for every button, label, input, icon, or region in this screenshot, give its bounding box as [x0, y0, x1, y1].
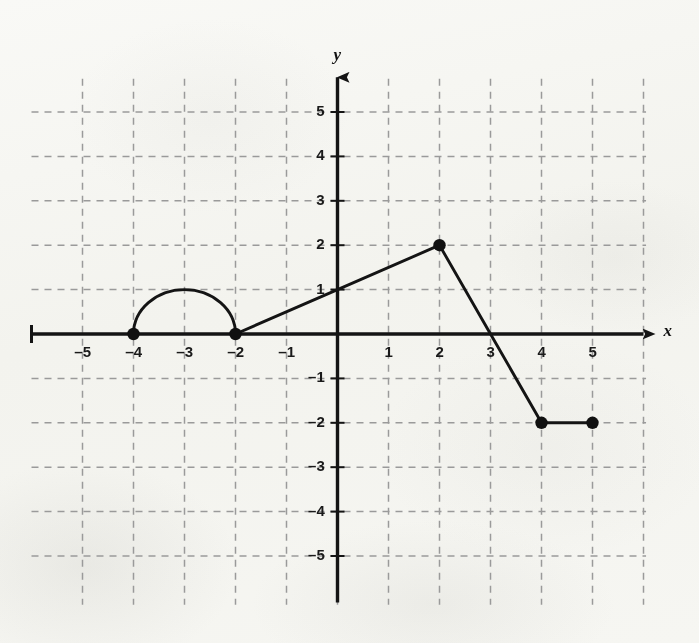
y-tick-label: –3 — [308, 457, 325, 474]
x-tick-label: 2 — [435, 343, 443, 360]
y-tick-label: –1 — [308, 368, 325, 385]
x-tick-label: –3 — [176, 343, 193, 360]
plot-canvas — [0, 0, 699, 643]
y-axis-label: y — [334, 45, 342, 65]
data-point-dot — [535, 417, 547, 429]
x-tick-label: 5 — [588, 343, 596, 360]
x-tick-label: 1 — [384, 343, 392, 360]
x-tick-label: 4 — [537, 343, 545, 360]
y-tick-label: –4 — [308, 502, 325, 519]
y-tick-label: 4 — [316, 146, 324, 163]
coordinate-graph-figure: –5–4–3–2–112345–5–4–3–2–112345 y x — [0, 0, 699, 643]
x-tick-label: –1 — [278, 343, 295, 360]
data-point-dot — [586, 417, 598, 429]
x-tick-label: –5 — [74, 343, 91, 360]
y-tick-label: –5 — [308, 546, 325, 563]
x-axis-label: x — [664, 321, 673, 341]
data-point-dot — [229, 328, 241, 340]
y-tick-label: 5 — [316, 102, 324, 119]
y-tick-label: 3 — [316, 191, 324, 208]
x-tick-label: –2 — [227, 343, 244, 360]
y-tick-label: 1 — [316, 280, 324, 297]
data-point-dot — [127, 328, 139, 340]
x-tick-label: –4 — [125, 343, 142, 360]
y-tick-label: –2 — [308, 413, 325, 430]
data-point-dot — [433, 239, 445, 251]
x-tick-label: 3 — [486, 343, 494, 360]
y-tick-label: 2 — [316, 235, 324, 252]
